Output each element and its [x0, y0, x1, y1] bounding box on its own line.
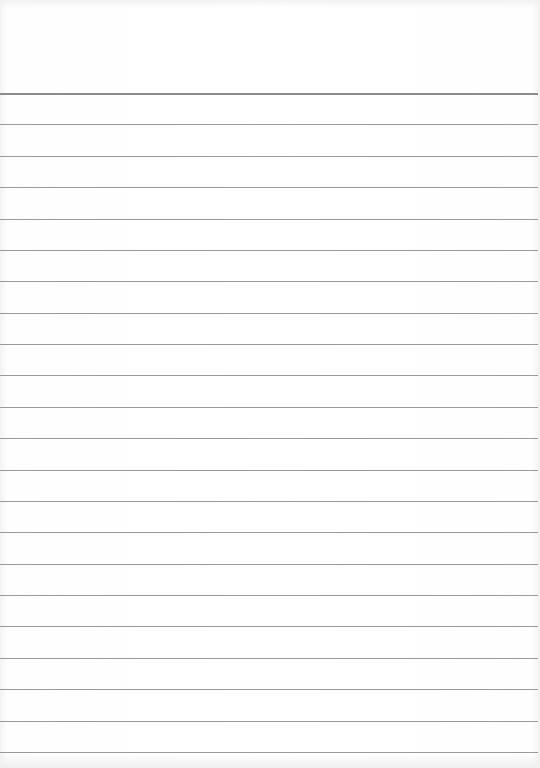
ruled-line: [0, 250, 538, 251]
ruled-line: [0, 689, 538, 690]
ruled-line: [0, 658, 538, 659]
ruled-line: [0, 438, 538, 439]
ruled-line: [0, 407, 538, 408]
lined-paper-page: [0, 0, 540, 768]
ruled-line: [0, 752, 538, 753]
ruled-line: [0, 187, 538, 188]
paper-bottom-edge: [0, 754, 540, 768]
ruled-line: [0, 281, 538, 282]
ruled-line: [0, 564, 538, 565]
ruled-line: [0, 501, 538, 502]
ruled-line: [0, 470, 538, 471]
ruled-line: [0, 721, 538, 722]
ruled-line: [0, 93, 538, 95]
ruled-line: [0, 124, 538, 125]
ruled-line: [0, 595, 538, 596]
ruled-line: [0, 313, 538, 314]
ruled-line: [0, 219, 538, 220]
ruled-line: [0, 344, 538, 345]
ruled-line: [0, 375, 538, 376]
ruled-line: [0, 532, 538, 533]
ruled-line: [0, 156, 538, 157]
ruled-line: [0, 626, 538, 627]
paper-top-edge: [0, 0, 540, 8]
